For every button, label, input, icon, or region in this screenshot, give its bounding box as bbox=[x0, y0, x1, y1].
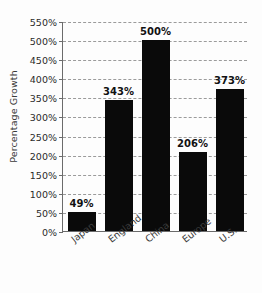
y-axis-tick-label: 100% bbox=[30, 188, 57, 199]
bar: 500% bbox=[142, 40, 170, 231]
y-axis-tick bbox=[59, 156, 63, 157]
y-axis-tick-label: 450% bbox=[30, 55, 57, 66]
y-axis-tick bbox=[59, 41, 63, 42]
y-axis-tick bbox=[59, 213, 63, 214]
bar-value-label: 343% bbox=[103, 86, 134, 97]
y-axis-tick bbox=[59, 98, 63, 99]
y-axis-tick bbox=[59, 117, 63, 118]
bar-value-label: 49% bbox=[70, 198, 94, 209]
y-axis-tick-label: 300% bbox=[30, 112, 57, 123]
y-axis-tick bbox=[59, 79, 63, 80]
y-axis-tick-label: 250% bbox=[30, 131, 57, 142]
y-axis-tick-label: 350% bbox=[30, 93, 57, 104]
bar: 343% bbox=[105, 100, 133, 231]
y-axis-tick bbox=[59, 60, 63, 61]
y-axis-tick bbox=[59, 175, 63, 176]
gridline bbox=[63, 22, 247, 23]
y-axis-tick bbox=[59, 194, 63, 195]
bar-value-label: 373% bbox=[214, 75, 245, 86]
bar-value-label: 206% bbox=[177, 138, 208, 149]
y-axis-tick-label: 550% bbox=[30, 17, 57, 28]
y-axis-tick-label: 0% bbox=[42, 227, 57, 238]
y-axis-tick-label: 500% bbox=[30, 36, 57, 47]
y-axis-tick bbox=[59, 137, 63, 138]
y-axis-title: Percentage Growth bbox=[2, 0, 24, 232]
y-axis-tick-label: 50% bbox=[36, 207, 57, 218]
y-axis-tick-label: 400% bbox=[30, 74, 57, 85]
y-axis-tick bbox=[59, 22, 63, 23]
y-axis-tick-label: 200% bbox=[30, 150, 57, 161]
y-axis-tick-label: 150% bbox=[30, 169, 57, 180]
bar: 373% bbox=[216, 89, 244, 231]
bar-value-label: 500% bbox=[140, 26, 171, 37]
y-axis-tick bbox=[59, 232, 63, 233]
plot-area: 0%50%100%150%200%250%300%350%400%450%500… bbox=[62, 22, 247, 232]
bar-chart: Percentage Growth 0%50%100%150%200%250%3… bbox=[0, 0, 262, 293]
y-axis-title-label: Percentage Growth bbox=[8, 70, 19, 163]
